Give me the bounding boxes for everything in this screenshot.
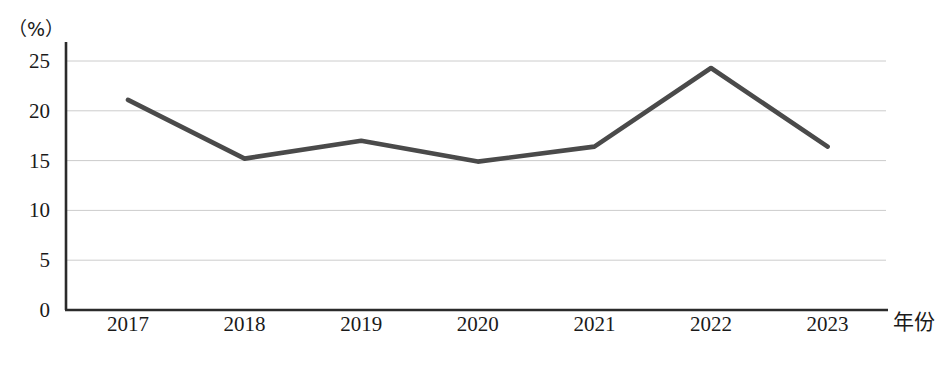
- y-tick-label: 10: [4, 200, 50, 221]
- series-line: [128, 68, 828, 162]
- x-tick-label: 2019: [316, 314, 406, 335]
- data-series-group: [128, 68, 828, 162]
- y-tick-label: 5: [4, 250, 50, 271]
- y-tick-label: 0: [4, 300, 50, 321]
- axis-lines-group: [65, 42, 888, 310]
- y-tick-label: 15: [4, 151, 50, 172]
- x-tick-label: 2021: [549, 314, 639, 335]
- line-chart-figure: （%） 0510152025 2017201820192020202120222…: [0, 0, 943, 381]
- x-tick-label: 2022: [666, 314, 756, 335]
- x-tick-label: 2017: [83, 314, 173, 335]
- x-axis-title: 年份: [893, 312, 935, 333]
- y-tick-label: 20: [4, 101, 50, 122]
- x-tick-label: 2020: [433, 314, 523, 335]
- y-tick-label: 25: [4, 51, 50, 72]
- x-tick-label: 2023: [783, 314, 873, 335]
- x-tick-label: 2018: [200, 314, 290, 335]
